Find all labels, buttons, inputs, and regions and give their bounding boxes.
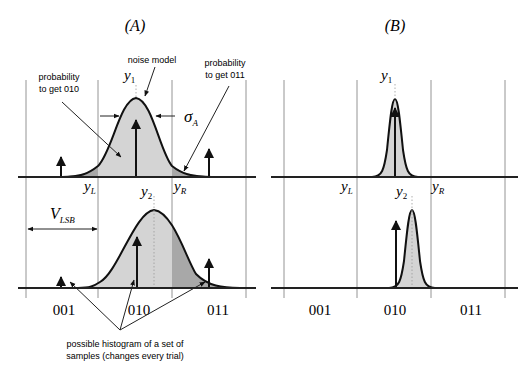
label-y1-b: y1 xyxy=(379,67,392,85)
label-y1: y1 xyxy=(122,67,135,85)
label-y2-b: y2 xyxy=(394,183,407,201)
noise-model-label: noise model xyxy=(128,55,177,65)
panel-b-bottom-distribution xyxy=(271,196,518,288)
code-001-b: 001 xyxy=(309,302,332,318)
label-y2: y2 xyxy=(139,183,152,201)
histogram-label-line2: samples (changes every trial) xyxy=(66,351,184,361)
panel-a: (A) xyxy=(18,17,256,361)
prob-011-label-line2: to get 011 xyxy=(205,70,244,80)
code-011: 011 xyxy=(207,302,229,318)
code-010: 010 xyxy=(128,302,151,318)
prob-011-label-line1: probability xyxy=(204,58,246,68)
code-011-b: 011 xyxy=(460,302,482,318)
panel-a-title: (A) xyxy=(125,17,145,35)
prob-010-label-line2: to get 010 xyxy=(39,84,79,94)
prob-010-label-line1: probability xyxy=(38,72,80,82)
histogram-label-line1: possible histogram of a set of xyxy=(66,339,184,349)
label-yr-b: yR xyxy=(430,178,445,196)
label-sigma-a: σA xyxy=(184,107,198,128)
code-010-b: 010 xyxy=(384,302,407,318)
code-001: 001 xyxy=(53,302,76,318)
panel-b-title: (B) xyxy=(385,17,405,35)
histogram-callout: possible histogram of a set of samples (… xyxy=(66,280,205,361)
panel-b: (B) y1 yL yR y2 001 010 011 xyxy=(271,17,518,318)
panel-a-top-distribution xyxy=(18,85,256,177)
label-yl: yL xyxy=(82,178,96,196)
panel-b-top-distribution xyxy=(271,84,518,177)
label-yl-b: yL xyxy=(339,178,353,196)
label-yr: yR xyxy=(172,178,187,196)
label-vlsb: VLSB xyxy=(50,205,75,225)
quantization-noise-diagram: (A) xyxy=(0,0,531,372)
